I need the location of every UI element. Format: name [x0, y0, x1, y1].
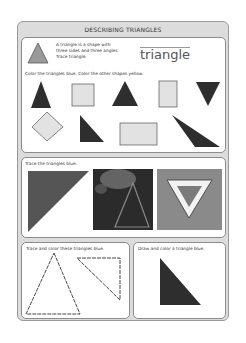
yield-sign-image[interactable]	[157, 169, 222, 230]
triangle-photo-image[interactable]	[93, 169, 153, 230]
shape-diamond[interactable]	[32, 112, 63, 141]
trace-color-panel: Trace and color these triangles blue.	[21, 242, 130, 319]
triangle-flag-image[interactable]	[28, 171, 90, 233]
intro-panel: A triangle is a shape with three sides a…	[21, 37, 226, 153]
shape-triangle-3[interactable]	[196, 82, 220, 106]
shape-rectangle-1[interactable]	[159, 81, 177, 107]
worksheet-title: DESCRIBING TRIANGLES	[18, 22, 228, 38]
trace-triangle-1[interactable]	[26, 253, 80, 314]
shape-obtuse-triangle[interactable]	[172, 115, 220, 147]
trace-triangles-panel: Trace the triangles blue.	[21, 157, 226, 238]
trace-triangle-2[interactable]	[77, 258, 120, 300]
shape-triangle-1[interactable]	[31, 81, 51, 108]
shape-triangle-2[interactable]	[112, 81, 138, 106]
drawn-triangle[interactable]	[134, 243, 227, 320]
shapes-grid	[22, 38, 227, 154]
shape-square-1[interactable]	[72, 84, 94, 106]
worksheet-frame: DESCRIBING TRIANGLES A triangle is a sha…	[17, 21, 229, 321]
trace-triangles[interactable]	[22, 243, 131, 320]
draw-panel: Draw and color a triangle blue.	[133, 242, 226, 319]
section2-instruction: Trace the triangles blue.	[25, 161, 77, 167]
shape-right-triangle[interactable]	[80, 115, 104, 142]
shape-rectangle-2[interactable]	[120, 123, 157, 145]
